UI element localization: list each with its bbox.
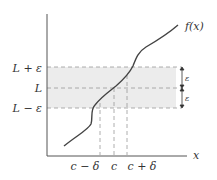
y-label-upper: L + ε bbox=[12, 62, 43, 75]
x-label-mid: c bbox=[111, 160, 117, 173]
x-axis-label: x bbox=[193, 149, 200, 162]
epsilon-delta-diagram: ε ε f(x) x L + ε L L − ε c − δ c c + δ bbox=[0, 0, 217, 180]
epsilon-label-upper: ε bbox=[185, 74, 189, 83]
y-label-mid: L bbox=[34, 82, 42, 95]
x-label-right: c + δ bbox=[128, 160, 157, 173]
epsilon-arrows bbox=[180, 67, 184, 108]
epsilon-band bbox=[47, 67, 176, 108]
epsilon-label-lower: ε bbox=[185, 94, 189, 103]
y-label-lower: L − ε bbox=[12, 102, 43, 115]
x-label-left: c − δ bbox=[71, 160, 100, 173]
curve-label: f(x) bbox=[184, 20, 204, 33]
